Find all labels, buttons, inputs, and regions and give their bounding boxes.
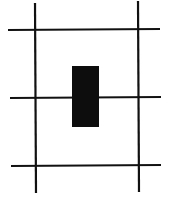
grid-diagram — [0, 0, 185, 199]
vertical-line-2 — [138, 1, 139, 192]
vertical-line-1 — [35, 3, 36, 193]
filled-block — [72, 66, 99, 127]
diagram-canvas — [0, 0, 185, 199]
